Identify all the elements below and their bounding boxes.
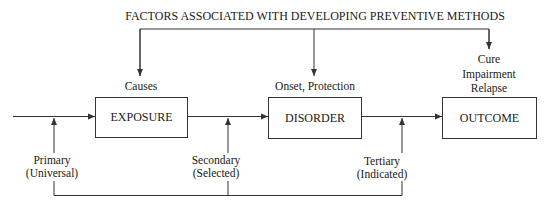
disorder-annotation: Onset, Protection (275, 80, 355, 93)
disorder-box: DISORDER (268, 97, 362, 139)
exposure-label: EXPOSURE (110, 110, 172, 125)
outcome-annotation: Cure Impairment Relapse (462, 52, 516, 96)
annotation-impairment: Impairment (462, 67, 516, 82)
annotation-onset-protection: Onset, Protection (275, 80, 355, 93)
secondary-prevention-label: Secondary (Selected) (192, 154, 241, 180)
disorder-label: DISORDER (285, 111, 345, 126)
outcome-label: OUTCOME (460, 111, 519, 126)
secondary-qualifier: (Selected) (192, 167, 241, 180)
diagram-title: FACTORS ASSOCIATED WITH DEVELOPING PREVE… (125, 9, 505, 24)
annotation-causes: Causes (125, 80, 158, 93)
prevention-diagram: FACTORS ASSOCIATED WITH DEVELOPING PREVE… (0, 0, 550, 206)
top-factor-bracket (140, 29, 489, 76)
outcome-box: OUTCOME (442, 97, 537, 139)
annotation-relapse: Relapse (462, 81, 516, 96)
secondary-name: Secondary (192, 154, 241, 167)
primary-qualifier: (Universal) (26, 167, 78, 180)
tertiary-name: Tertiary (357, 155, 407, 168)
primary-name: Primary (26, 154, 78, 167)
exposure-box: EXPOSURE (95, 97, 188, 138)
tertiary-qualifier: (Indicated) (357, 168, 407, 181)
primary-prevention-label: Primary (Universal) (26, 154, 78, 180)
exposure-annotation: Causes (125, 80, 158, 93)
annotation-cure: Cure (462, 52, 516, 67)
tertiary-prevention-label: Tertiary (Indicated) (357, 155, 407, 181)
